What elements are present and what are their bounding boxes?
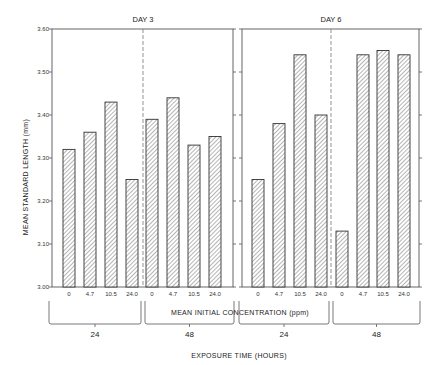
y-tick-label: 3.00 bbox=[37, 284, 49, 290]
bar bbox=[398, 55, 410, 287]
y-tick-label: 3.30 bbox=[37, 155, 49, 161]
bar bbox=[294, 55, 306, 287]
bar bbox=[105, 102, 117, 287]
y-axis-title: MEAN STANDARD LENGTH (mm) bbox=[22, 119, 30, 235]
bar bbox=[315, 115, 327, 287]
bar bbox=[146, 119, 158, 287]
bar bbox=[252, 180, 264, 288]
concentration-axis-title: MEAN INITIAL CONCENTRATION (ppm) bbox=[171, 309, 309, 317]
concentration-label: 10.5 bbox=[105, 291, 117, 297]
bar bbox=[84, 132, 96, 287]
concentration-label: 24.0 bbox=[398, 291, 410, 297]
concentration-label: 4.7 bbox=[275, 291, 284, 297]
x-axis-title: EXPOSURE TIME (HOURS) bbox=[191, 352, 287, 360]
y-tick-label: 3.20 bbox=[37, 198, 49, 204]
bar bbox=[377, 51, 389, 288]
exposure-time-label: 24 bbox=[91, 330, 100, 339]
bar bbox=[188, 145, 200, 287]
bar bbox=[209, 137, 221, 288]
bar bbox=[167, 98, 179, 287]
panel-title: DAY 6 bbox=[321, 15, 342, 24]
concentration-label: 0 bbox=[67, 291, 71, 297]
exposure-time-label: 48 bbox=[372, 330, 381, 339]
exposure-time-label: 48 bbox=[185, 330, 194, 339]
y-tick-label: 3.60 bbox=[37, 26, 49, 32]
exposure-time-label: 24 bbox=[280, 330, 289, 339]
bar-chart: 3.003.103.203.303.403.503.60MEAN STANDAR… bbox=[0, 0, 441, 365]
concentration-label: 0 bbox=[256, 291, 260, 297]
concentration-label: 10.5 bbox=[188, 291, 200, 297]
concentration-label: 10.5 bbox=[294, 291, 306, 297]
concentration-label: 24.0 bbox=[209, 291, 221, 297]
concentration-label: 0 bbox=[150, 291, 154, 297]
bar bbox=[126, 180, 138, 288]
bar bbox=[336, 231, 348, 287]
y-tick-label: 3.50 bbox=[37, 69, 49, 75]
concentration-label: 4.7 bbox=[86, 291, 95, 297]
panel-frame bbox=[52, 29, 233, 287]
bar bbox=[357, 55, 369, 287]
bar bbox=[63, 149, 75, 287]
panel-frame bbox=[242, 29, 419, 287]
concentration-label: 24.0 bbox=[126, 291, 138, 297]
concentration-label: 10.5 bbox=[377, 291, 389, 297]
concentration-label: 4.7 bbox=[169, 291, 178, 297]
concentration-label: 0 bbox=[340, 291, 344, 297]
bars bbox=[63, 51, 410, 288]
exposure-bracket bbox=[333, 301, 420, 324]
y-tick-label: 3.40 bbox=[37, 112, 49, 118]
panel-title: DAY 3 bbox=[133, 15, 154, 24]
y-tick-label: 3.10 bbox=[37, 241, 49, 247]
concentration-label: 24.0 bbox=[315, 291, 327, 297]
concentration-label: 4.7 bbox=[359, 291, 368, 297]
exposure-bracket bbox=[49, 301, 141, 324]
bar bbox=[273, 124, 285, 287]
